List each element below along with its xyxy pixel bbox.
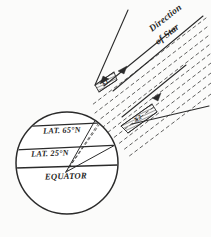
label-lat-25: LAT. 25°N xyxy=(30,148,70,158)
diagram-canvas: LAT. 65°N LAT. 25°N EQUATOR X1 X2 Direct… xyxy=(0,0,211,237)
label-lat-65: LAT. 65°N xyxy=(42,125,82,136)
arrowhead-icon xyxy=(152,93,161,101)
label-equator: EQUATOR xyxy=(44,170,87,181)
star-direction-diagram: LAT. 65°N LAT. 25°N EQUATOR X1 X2 Direct… xyxy=(0,0,211,237)
